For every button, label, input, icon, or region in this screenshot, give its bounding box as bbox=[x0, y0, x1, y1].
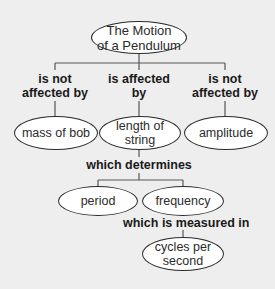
link-left-line1: is not bbox=[15, 72, 95, 86]
link-label-which-is-measured-in: which is measured in bbox=[123, 216, 243, 230]
node-period-label: period bbox=[81, 194, 116, 208]
node-period: period bbox=[58, 186, 138, 216]
node-frequency: frequency bbox=[142, 186, 224, 216]
concept-map: The Motion of a Pendulum is not affected… bbox=[0, 0, 275, 289]
root-label-line1: The Motion bbox=[97, 23, 181, 38]
node-amplitude: amplitude bbox=[184, 116, 268, 150]
node-cycles-per-second: cycles per second bbox=[142, 237, 224, 271]
node-length-of-string-label: length of string bbox=[100, 119, 180, 147]
link-middle-line1: is affected bbox=[99, 72, 179, 86]
node-mass-of-bob-label: mass of bob bbox=[22, 126, 90, 140]
node-length-of-string: length of string bbox=[99, 116, 181, 150]
link-measured-text: which is measured in bbox=[123, 216, 249, 230]
node-amplitude-label: amplitude bbox=[199, 126, 253, 140]
root-node-motion-of-pendulum: The Motion of a Pendulum bbox=[91, 21, 187, 54]
link-label-not-affected-left: is not affected by bbox=[15, 72, 95, 100]
node-mass-of-bob: mass of bob bbox=[14, 116, 98, 150]
link-left-line2: affected by bbox=[15, 86, 95, 100]
link-label-which-determines: which determines bbox=[84, 158, 194, 172]
link-label-not-affected-right: is not affected by bbox=[185, 72, 265, 100]
link-right-line2: affected by bbox=[185, 86, 265, 100]
link-middle-line2: by bbox=[99, 86, 179, 100]
link-label-affected-middle: is affected by bbox=[99, 72, 179, 100]
link-right-line1: is not bbox=[185, 72, 265, 86]
node-cycles-line2: second bbox=[155, 254, 211, 268]
root-label-line2: of a Pendulum bbox=[97, 38, 181, 53]
node-cycles-line1: cycles per bbox=[155, 240, 211, 254]
node-frequency-label: frequency bbox=[156, 194, 211, 208]
link-determines-text: which determines bbox=[86, 158, 192, 172]
